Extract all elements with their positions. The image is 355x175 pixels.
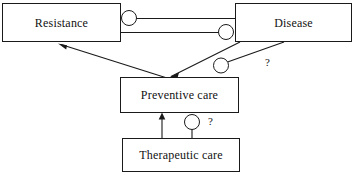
node-disease-label: Disease [274, 17, 313, 29]
node-disease[interactable]: Disease [235, 3, 352, 42]
node-therapeutic-care-label: Therapeutic care [139, 149, 222, 161]
edge-disease-to-preventive [171, 42, 240, 77]
edge-preventive-to-disease-uncertain [228, 42, 285, 62]
edge-preventive-to-resistance [61, 45, 167, 79]
node-resistance-label: Resistance [35, 17, 88, 29]
node-therapeutic-care[interactable]: Therapeutic care [122, 138, 240, 172]
diagram-canvas: Resistance Disease Preventive care Thera… [0, 0, 355, 175]
question-mark-disease-preventive: ? [265, 57, 270, 68]
question-mark-therapeutic-preventive: ? [208, 116, 213, 127]
node-resistance[interactable]: Resistance [2, 3, 121, 42]
node-preventive-care-label: Preventive care [141, 89, 218, 101]
node-preventive-care[interactable]: Preventive care [120, 77, 239, 113]
